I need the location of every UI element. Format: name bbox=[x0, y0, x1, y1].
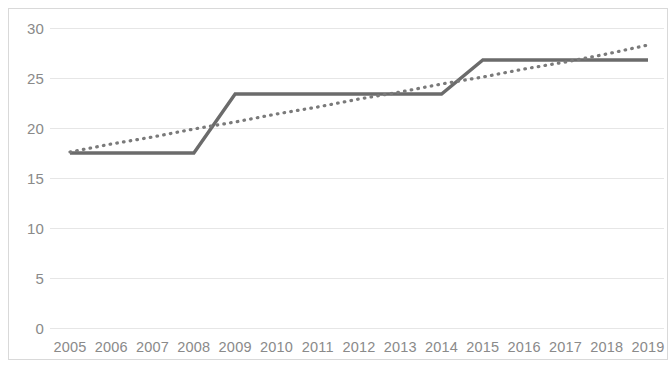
y-axis-tick-label: 20 bbox=[10, 121, 44, 136]
plot-area bbox=[50, 20, 664, 332]
gridline bbox=[50, 178, 664, 179]
x-axis-tick-label: 2017 bbox=[549, 340, 582, 355]
y-axis-tick-label: 15 bbox=[10, 171, 44, 186]
y-axis-tick-label: 30 bbox=[10, 21, 44, 36]
x-axis-tick-label: 2009 bbox=[219, 340, 252, 355]
x-axis-tick-label: 2016 bbox=[508, 340, 541, 355]
x-axis-tick-label: 2019 bbox=[631, 340, 664, 355]
x-axis: 2005200620072008200920102011201220132014… bbox=[50, 340, 664, 362]
x-axis-tick-label: 2006 bbox=[95, 340, 128, 355]
x-axis-tick-label: 2015 bbox=[466, 340, 499, 355]
gridline bbox=[50, 128, 664, 129]
gridline bbox=[50, 228, 664, 229]
x-axis-tick-label: 2012 bbox=[342, 340, 375, 355]
y-axis-tick-label: 10 bbox=[10, 221, 44, 236]
gridline bbox=[50, 78, 664, 79]
x-axis-tick-label: 2011 bbox=[302, 340, 334, 355]
x-axis-tick-label: 2007 bbox=[136, 340, 169, 355]
x-axis-tick-label: 2005 bbox=[53, 340, 86, 355]
y-axis-tick-label: 25 bbox=[10, 71, 44, 86]
x-axis-tick-label: 2008 bbox=[177, 340, 210, 355]
y-axis-tick-label: 0 bbox=[10, 321, 44, 336]
x-axis-tick-label: 2018 bbox=[590, 340, 623, 355]
y-axis: 051015202530 bbox=[0, 20, 44, 332]
y-axis-tick-label: 5 bbox=[10, 271, 44, 286]
x-axis-tick-label: 2010 bbox=[260, 340, 293, 355]
gridline bbox=[50, 28, 664, 29]
gridline bbox=[50, 278, 664, 279]
x-axis-tick-label: 2013 bbox=[384, 340, 417, 355]
gridline bbox=[50, 328, 664, 329]
x-axis-tick-label: 2014 bbox=[425, 340, 458, 355]
chart-container: 051015202530 200520062007200820092010201… bbox=[0, 0, 672, 367]
